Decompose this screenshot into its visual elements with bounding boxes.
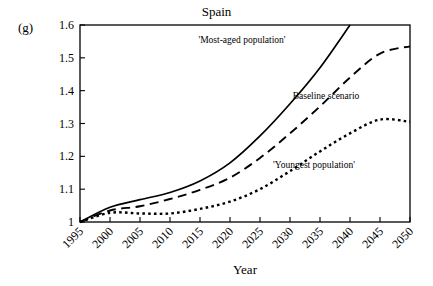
x-tick-label: 2015: [179, 224, 206, 251]
y-tick-label: 1.5: [59, 51, 74, 65]
y-tick-label: 1.3: [59, 117, 74, 131]
plot-frame: [80, 25, 410, 222]
series-annotations: 'Most-aged population'Baseline scenario'…: [198, 35, 359, 170]
series-line-2: [80, 119, 410, 222]
annotation-1: Baseline scenario: [293, 91, 360, 101]
x-tick-label: 2040: [329, 224, 356, 251]
annotation-2: 'Youngest population': [273, 160, 355, 170]
x-tick-label: 2050: [389, 224, 416, 251]
x-tick-label: 2000: [89, 224, 116, 251]
plot-svg: 11.11.21.31.41.51.6 19952000200520102015…: [0, 0, 433, 286]
annotation-0: 'Most-aged population': [198, 35, 285, 45]
x-tick-label: 2010: [149, 224, 176, 251]
y-axis-ticks: 11.11.21.31.41.51.6: [59, 18, 85, 229]
y-tick-label: 1.1: [59, 182, 74, 196]
x-tick-label: 2020: [209, 224, 236, 251]
x-tick-label: 2045: [359, 224, 386, 251]
x-tick-label: 2035: [299, 224, 326, 251]
x-tick-label: 1995: [59, 224, 86, 251]
y-tick-label: 1.4: [59, 84, 74, 98]
y-tick-label: 1.2: [59, 149, 74, 163]
x-tick-label: 2025: [239, 224, 266, 251]
x-tick-label: 2005: [119, 224, 146, 251]
series-curves: [80, 25, 410, 222]
series-line-0: [80, 25, 350, 222]
chart-figure: (g) Spain Public expenditure index/ work…: [0, 0, 433, 286]
y-tick-label: 1.6: [59, 18, 74, 32]
x-tick-label: 2030: [269, 224, 296, 251]
